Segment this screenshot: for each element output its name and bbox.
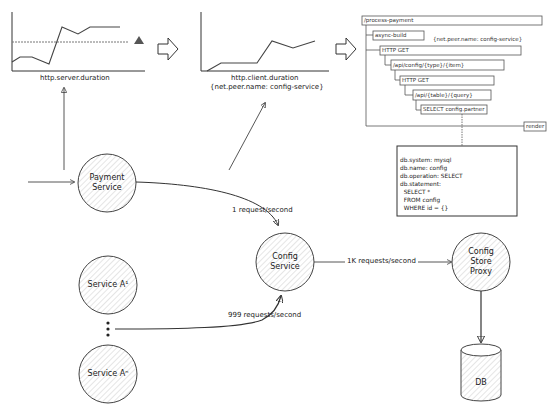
client-duration-chart (201, 12, 329, 71)
trace-span[interactable]: HTTP GET (382, 47, 409, 53)
warning-triangle-icon (134, 36, 144, 44)
db-attribute: db.statement: (400, 181, 441, 189)
server-duration-label: http.server.duration (40, 74, 110, 82)
trace-span[interactable]: SELECT config.partner (423, 106, 484, 112)
trace-annotation: {net.peer.name: config-service} (433, 36, 522, 42)
edge-label-config-proxy: 1K requests/second (345, 257, 418, 265)
db-attribute: db.name: config (400, 165, 447, 173)
service-an-label: Service Aⁿ (79, 369, 137, 379)
client-duration-label: http.client.duration (231, 74, 299, 82)
flow-arrow-icon (336, 38, 356, 60)
db-attribute: SELECT * (400, 189, 430, 197)
trace-span[interactable]: async-build (375, 32, 407, 38)
db-cylinder (461, 344, 501, 401)
config-store-proxy-label: Config Store Proxy (452, 247, 510, 277)
trace-span[interactable]: /process-payment (364, 17, 413, 23)
edge-label-others-config: 999 requests/second (228, 311, 301, 319)
db-label: DB (462, 378, 500, 388)
payment-service-label: Payment Service (78, 173, 136, 193)
service-a1-label: Service A¹ (79, 280, 137, 290)
flow-arrow-icon (158, 38, 178, 60)
db-attribute: db.system: mysql (400, 157, 451, 165)
db-attribute: WHERE id = {} (400, 205, 448, 213)
trace-span[interactable]: /api/config/{type}/{item} (393, 62, 464, 68)
config-service-label: Config Service (256, 252, 314, 272)
trace-span[interactable]: HTTP GET (402, 77, 429, 83)
trace-waterfall (362, 16, 546, 216)
db-attribute: FROM config (400, 197, 440, 205)
trace-span[interactable]: /api/{table}/{query} (415, 92, 473, 98)
db-attribute: db.operation: SELECT (400, 173, 463, 181)
client-duration-sublabel: {net.peer.name: config-service} (210, 83, 324, 91)
server-duration-chart (12, 12, 145, 71)
edge-label-payment-config: 1 request/second (232, 206, 293, 214)
trace-span[interactable]: render (526, 123, 544, 129)
